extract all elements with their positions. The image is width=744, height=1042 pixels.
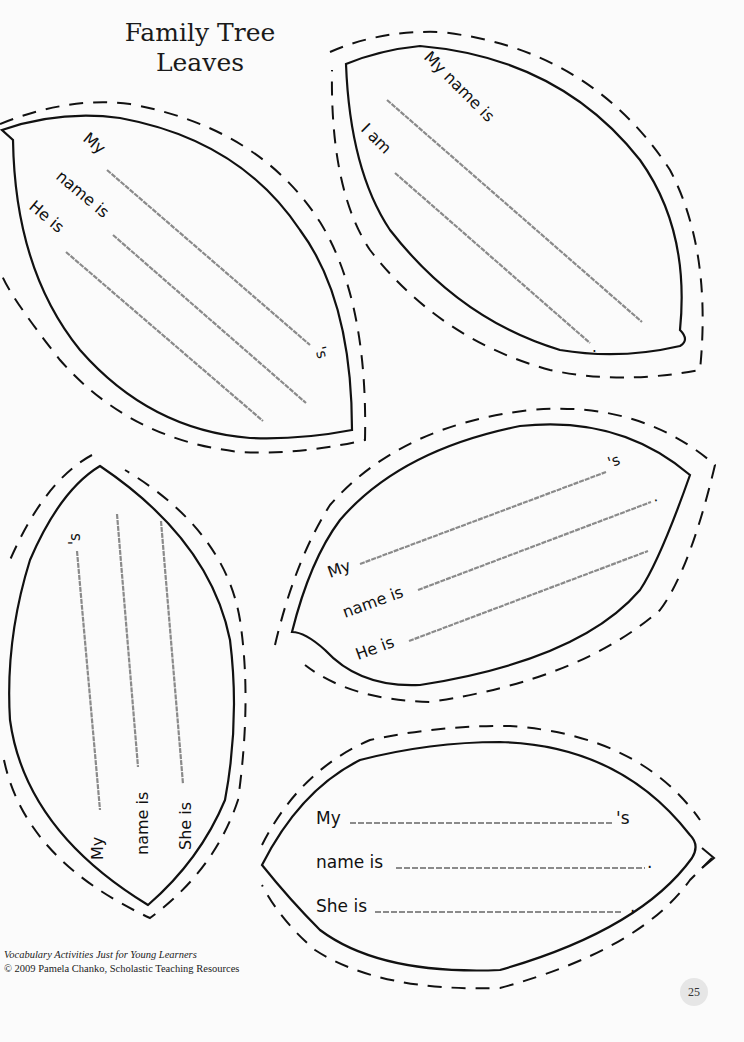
writing-line	[395, 173, 590, 343]
prompt-name-is: name is	[52, 167, 113, 222]
cut-line	[275, 409, 715, 702]
ending-possessive: 's	[311, 344, 332, 360]
writing-line	[161, 521, 183, 784]
leaf-outline	[346, 46, 685, 354]
cut-line	[0, 102, 365, 452]
ending-possessive: 's	[605, 451, 623, 472]
prompt-my-name-is: My name is	[420, 47, 498, 125]
leaf-middle-right: My name is He is 's .	[275, 409, 715, 702]
ending-period: .	[630, 896, 635, 916]
book-title: Vocabulary Activities Just for Young Lea…	[4, 948, 239, 962]
writing-line	[360, 472, 606, 564]
prompt-she-is: She is	[176, 802, 195, 850]
prompt-my: My	[325, 556, 353, 582]
writing-line	[66, 252, 263, 421]
writing-line	[409, 551, 648, 641]
writing-line	[418, 502, 651, 590]
cut-line	[330, 32, 703, 378]
leaves-artwork: My name is He is 's My name is I am . My…	[0, 0, 744, 1042]
prompt-my: My	[88, 837, 107, 860]
writing-line	[113, 235, 306, 403]
leaf-outline	[2, 116, 352, 439]
cut-line	[4, 455, 246, 918]
leaf-top-left: My name is He is 's	[0, 102, 365, 452]
prompt-she-is: She is	[316, 896, 367, 916]
page-number: 25	[680, 978, 708, 1006]
writing-line	[117, 514, 138, 767]
prompt-my: My	[316, 808, 341, 828]
ending-period: .	[647, 852, 652, 872]
prompt-my: My	[79, 129, 109, 159]
prompt-name-is: name is	[340, 582, 406, 621]
ending-possessive: 's	[66, 533, 84, 545]
writing-line	[77, 551, 100, 810]
leaf-top-right: My name is I am .	[330, 32, 703, 378]
prompt-name-is: name is	[316, 852, 383, 872]
prompt-name-is: name is	[133, 792, 152, 855]
prompt-i-am: I am	[357, 119, 395, 157]
leaf-bottom-left-vertical: My name is She is 's	[4, 455, 246, 918]
ending-period: .	[592, 338, 597, 356]
ending-possessive: 's	[616, 808, 630, 828]
copyright: © 2009 Pamela Chanko, Scholastic Teachin…	[4, 962, 239, 976]
prompt-he-is: He is	[353, 632, 397, 663]
leaf-outline	[292, 424, 690, 685]
prompt-he-is: He is	[25, 197, 68, 237]
footer-credits: Vocabulary Activities Just for Young Lea…	[4, 948, 239, 976]
writing-line	[387, 100, 642, 322]
leaf-bottom-right: My name is She is 's . .	[262, 726, 714, 988]
